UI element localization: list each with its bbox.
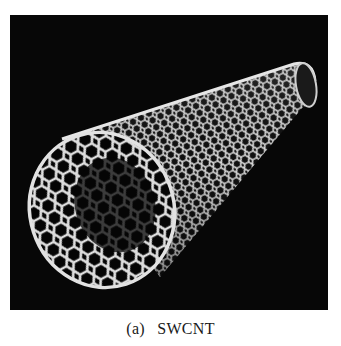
nanotube-image [10,15,328,310]
nanotube-illustration [10,15,328,310]
caption-text: SWCNT [157,320,215,337]
panel-label: (a) [126,320,145,337]
figure-caption: (a) SWCNT [0,320,341,338]
